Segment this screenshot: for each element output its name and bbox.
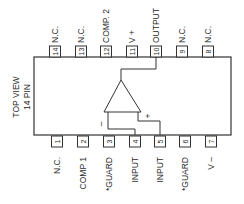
diagram-title: TOP VIEW 14 PIN (11, 76, 32, 117)
pin-4: 4INPUT (130, 136, 141, 183)
pinout-diagram: TOP VIEW 14 PIN 14N.C.13N.C.12COMP. 211V… (0, 0, 244, 204)
pin-number: 2 (80, 139, 87, 143)
pin-8: 8N.C. (203, 26, 214, 57)
pin-number: 11 (129, 48, 136, 55)
pin-number: 1 (54, 139, 61, 143)
pin-label: OUTPUT (151, 8, 161, 43)
pin-11: 11V + (127, 30, 138, 57)
pin-label: N.C. (203, 26, 213, 43)
title-pin-count: 14 PIN (22, 84, 32, 110)
pin-label: N.C. (50, 26, 60, 43)
pin-label: INPUT (155, 157, 165, 183)
pin-number: 5 (157, 139, 164, 143)
pin-2: 2COMP 1 (78, 136, 89, 189)
pin-label: N.C. (177, 26, 187, 43)
pin-label: INPUT (130, 157, 140, 183)
pin-label: N.C. (76, 26, 86, 43)
inverting-symbol: – (96, 121, 106, 126)
pin-label: *GUARD (180, 157, 190, 191)
inverting-input-wire (108, 112, 135, 135)
pin-3: 3*GUARD (104, 136, 115, 191)
top-pin-row: 14N.C.13N.C.12COMP. 211V +10OUTPUT9N.C.8… (50, 8, 214, 57)
pin-number: 14 (52, 48, 59, 56)
pin-label: COMP 1 (78, 157, 88, 190)
pin-label: V + (127, 30, 137, 43)
pin-6: 6*GUARD (180, 136, 191, 191)
pin-label: V – (206, 157, 216, 170)
pin-number: 9 (179, 49, 186, 53)
pin-number: 8 (205, 49, 212, 53)
pin-number: 13 (78, 48, 85, 56)
pin-7: 7V – (206, 136, 217, 170)
pin-number: 4 (132, 139, 139, 143)
pin-number: 6 (182, 139, 189, 143)
pin-12: 12COMP. 2 (101, 9, 112, 57)
pin-number: 7 (208, 139, 215, 143)
pin-label: N.C. (52, 157, 62, 174)
pin-number: 12 (103, 48, 110, 56)
pin-1: 1N.C. (52, 136, 63, 174)
pin-number: 3 (106, 139, 113, 143)
output-wire (121, 57, 156, 80)
title-top-view: TOP VIEW (11, 76, 21, 117)
pin-14: 14N.C. (50, 26, 61, 57)
pin-5: 5INPUT (155, 136, 166, 183)
pin-label: *GUARD (104, 157, 114, 191)
pin-label: COMP. 2 (101, 9, 111, 43)
pin-number: 10 (153, 48, 160, 56)
bottom-pin-row: 1N.C.2COMP 13*GUARD4INPUT5INPUT6*GUARD7V… (52, 136, 217, 191)
opamp-symbol (104, 57, 160, 135)
opamp-triangle-icon (104, 80, 141, 112)
noninverting-symbol: + (143, 113, 153, 118)
pin-10: 10OUTPUT (151, 8, 162, 57)
pin-9: 9N.C. (177, 26, 188, 57)
pin-13: 13N.C. (76, 26, 87, 57)
